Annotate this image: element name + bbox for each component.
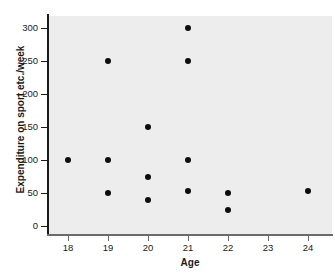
y-tick-mark bbox=[41, 127, 47, 128]
x-tick-mark bbox=[148, 236, 149, 241]
data-point bbox=[145, 124, 151, 130]
x-tick-label: 22 bbox=[208, 243, 248, 253]
x-tick-label: 21 bbox=[168, 243, 208, 253]
y-tick-mark bbox=[41, 160, 47, 161]
data-point bbox=[185, 58, 191, 64]
x-tick-mark bbox=[268, 236, 269, 241]
data-point bbox=[225, 190, 231, 196]
x-tick-mark bbox=[68, 236, 69, 241]
x-axis-line bbox=[47, 234, 333, 236]
data-point bbox=[145, 174, 151, 180]
x-tick-label: 24 bbox=[288, 243, 328, 253]
y-tick-mark bbox=[41, 193, 47, 194]
data-point bbox=[105, 58, 111, 64]
plot-area bbox=[48, 16, 332, 234]
x-tick-mark bbox=[228, 236, 229, 241]
data-point bbox=[105, 190, 111, 196]
y-tick-mark bbox=[41, 28, 47, 29]
y-axis-title: Expenditure on sport etc./week bbox=[15, 5, 26, 235]
data-point bbox=[185, 188, 191, 194]
x-axis-title: Age bbox=[48, 257, 332, 268]
y-tick-mark bbox=[41, 226, 47, 227]
x-tick-mark bbox=[308, 236, 309, 241]
scatter-plot-figure: 050100150200250300 18192021222324 Expend… bbox=[0, 0, 335, 279]
data-point bbox=[145, 197, 151, 203]
x-tick-label: 20 bbox=[128, 243, 168, 253]
data-point bbox=[225, 207, 231, 213]
data-point bbox=[185, 157, 191, 163]
x-tick-label: 18 bbox=[48, 243, 88, 253]
x-tick-label: 19 bbox=[88, 243, 128, 253]
data-point bbox=[185, 25, 191, 31]
x-tick-label: 23 bbox=[248, 243, 288, 253]
x-tick-mark bbox=[188, 236, 189, 241]
x-tick-mark bbox=[108, 236, 109, 241]
data-point bbox=[305, 188, 311, 194]
y-axis-line bbox=[47, 14, 49, 236]
data-point bbox=[105, 157, 111, 163]
y-tick-mark bbox=[41, 61, 47, 62]
data-point bbox=[65, 157, 71, 163]
y-tick-mark bbox=[41, 94, 47, 95]
